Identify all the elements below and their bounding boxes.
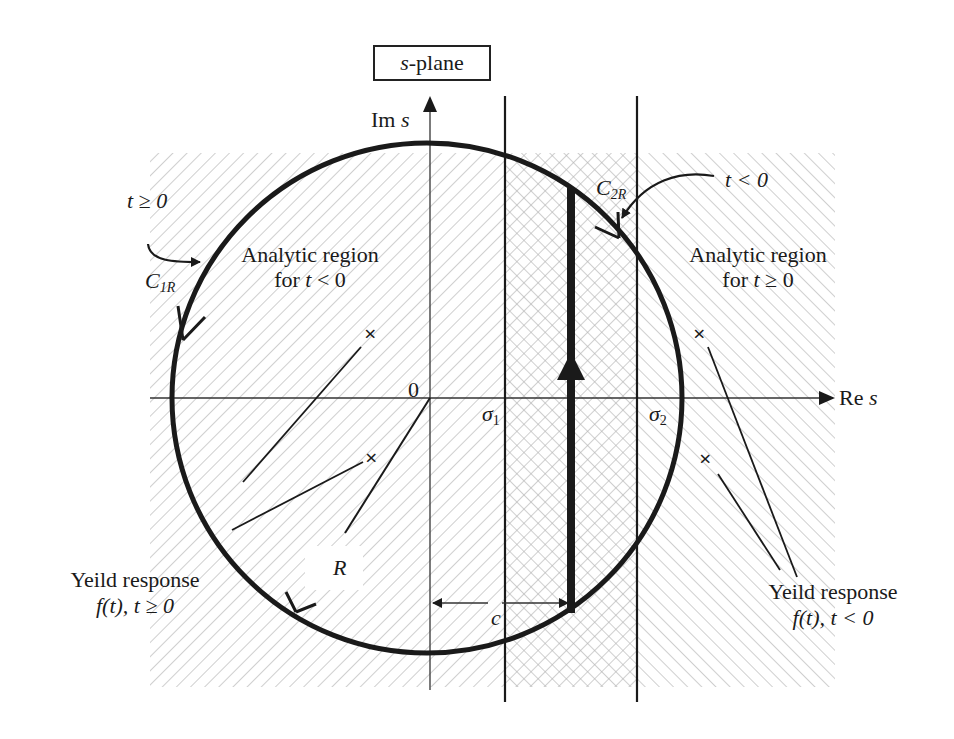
c1r-sub: 1R [160, 280, 176, 295]
c1r-label: C1R [145, 269, 175, 300]
title-rest: -plane [409, 50, 464, 75]
left-region-pre: for [274, 267, 305, 292]
right-region-pre: for [722, 267, 753, 292]
title-var: s [400, 50, 409, 75]
pole-marker-icon: × [364, 322, 377, 346]
s-plane-title: s-plane [373, 45, 491, 81]
c2r-sub: 2R [611, 187, 627, 202]
left-region-post: < 0 [311, 267, 345, 292]
c1r-condition: t ≥ 0 [127, 189, 167, 213]
left-region-line1: Analytic region [210, 243, 410, 267]
imag-axis-label: Im s [371, 108, 410, 132]
real-axis-var: s [869, 385, 878, 410]
right-region-line2: for t ≥ 0 [658, 268, 858, 292]
radius-label: R [333, 556, 346, 580]
sigma2-sub: 2 [660, 413, 667, 428]
sigma2-label: σ2 [649, 402, 667, 433]
right-region-line1: Analytic region [658, 243, 858, 267]
right-annotation-line2: f(t), t < 0 [738, 606, 928, 630]
c2r-label: C2R [596, 176, 626, 207]
left-annotation-line2: f(t), t ≥ 0 [40, 594, 230, 618]
sigma1-symbol: σ [482, 401, 493, 426]
imag-axis-var: s [401, 107, 410, 132]
imag-axis-text: Im [371, 107, 395, 132]
c2r-condition: t < 0 [725, 168, 768, 192]
real-axis-label: Re s [839, 386, 878, 410]
c1r-main: C [145, 268, 160, 293]
origin-label: 0 [408, 378, 419, 402]
sigma1-sub: 1 [493, 413, 500, 428]
sigma1-label: σ1 [482, 402, 500, 433]
real-axis-text: Re [839, 385, 863, 410]
right-region-post: ≥ 0 [760, 267, 794, 292]
pole-marker-icon: × [699, 447, 712, 471]
left-region-line2: for t < 0 [210, 268, 410, 292]
pole-marker-icon: × [693, 322, 706, 346]
c-label: c [491, 606, 501, 630]
c2r-main: C [596, 175, 611, 200]
left-annotation-line1: Yeild response [40, 568, 230, 592]
sigma2-symbol: σ [649, 401, 660, 426]
right-annotation-line1: Yeild response [738, 580, 928, 604]
pole-marker-icon: × [365, 446, 378, 470]
